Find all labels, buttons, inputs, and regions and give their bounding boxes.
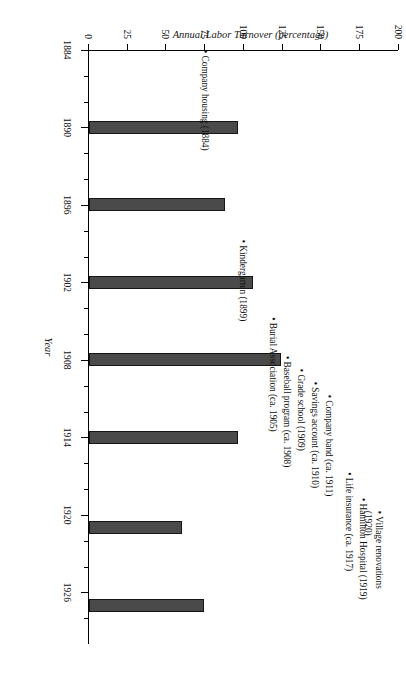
y-axis-line: [88, 50, 398, 51]
x-tick-major: [81, 127, 88, 128]
x-tick-label: 1920: [62, 505, 72, 524]
x-tick-minor: [84, 618, 88, 619]
y-tick: [282, 44, 283, 50]
y-tick: [127, 44, 128, 50]
x-tick-minor: [84, 567, 88, 568]
bar: [89, 276, 253, 289]
x-tick-label: 1914: [62, 428, 72, 447]
bar: [89, 431, 238, 444]
y-tick: [359, 44, 360, 50]
x-tick-minor: [84, 153, 88, 154]
x-tick-major: [81, 437, 88, 438]
x-tick-label: 1908: [62, 350, 72, 369]
x-tick-major: [81, 515, 88, 516]
plot-area: 18841890189619021908191419201926 0255075…: [88, 50, 398, 644]
rotated-figure-stage: 18841890189619021908191419201926 0255075…: [0, 0, 406, 679]
x-tick-minor: [84, 257, 88, 258]
y-tick: [321, 44, 322, 50]
y-tick: [88, 44, 89, 50]
x-tick-minor: [84, 541, 88, 542]
x-tick-minor: [84, 334, 88, 335]
x-tick-minor: [84, 76, 88, 77]
y-axis-label: Annual Labor Turnover (percentage): [121, 29, 381, 40]
x-tick-minor: [84, 102, 88, 103]
y-tick: [243, 44, 244, 50]
x-tick-minor: [84, 386, 88, 387]
y-tick-label: 0: [83, 34, 93, 39]
x-tick-minor: [84, 463, 88, 464]
x-tick-minor: [84, 231, 88, 232]
x-tick-label: 1890: [62, 118, 72, 137]
x-axis-line: [88, 50, 89, 644]
x-tick-minor: [84, 489, 88, 490]
x-tick-label: 1884: [62, 40, 72, 59]
x-tick-major: [81, 205, 88, 206]
x-tick-label: 1902: [62, 273, 72, 292]
x-tick-major: [81, 282, 88, 283]
x-axis-label: Year: [43, 50, 54, 644]
x-tick-major: [81, 592, 88, 593]
y-tick: [398, 44, 399, 50]
x-tick-minor: [84, 412, 88, 413]
bar: [89, 521, 182, 534]
x-tick-minor: [84, 179, 88, 180]
y-tick-label: 200: [393, 25, 403, 39]
x-tick-major: [81, 50, 88, 51]
bar: [89, 353, 281, 366]
bar: [89, 198, 225, 211]
bar: [89, 121, 238, 134]
y-tick: [204, 44, 205, 50]
x-tick-minor: [84, 308, 88, 309]
y-tick: [166, 44, 167, 50]
bar: [89, 599, 204, 612]
x-tick-label: 1926: [62, 583, 72, 602]
x-tick-label: 1896: [62, 195, 72, 214]
x-tick-major: [81, 360, 88, 361]
